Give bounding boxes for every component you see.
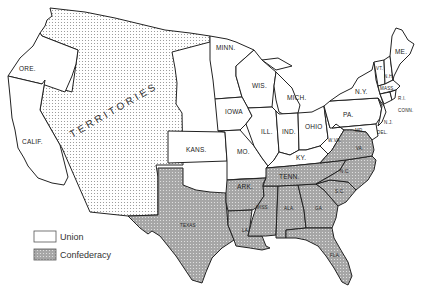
civil-war-map: ORE. CALIF. TERRITORIES MINN. WIS. IOWA … [0,0,424,290]
label-ind: IND. [282,128,296,135]
label-ky: KY. [296,154,306,161]
label-kans: KANS. [186,146,207,153]
label-ny: N.Y. [355,88,368,95]
label-ri: R.I. [398,96,406,101]
label-nj: N.J. [384,120,393,125]
label-nc: N.C. [340,169,350,174]
label-conn: CONN. [398,108,414,113]
label-pa: PA. [343,111,354,118]
label-ala: ALA. [284,206,295,211]
label-minn: MINN. [216,44,235,51]
legend: Union Confederacy [34,231,112,260]
legend-swatch-confederacy [34,249,56,260]
label-miss: MISS. [256,205,269,210]
label-iowa: IOWA [225,108,243,115]
label-wva: W.VA. [328,138,341,143]
label-tenn: TENN. [279,173,300,180]
region-territories [40,8,210,216]
label-vt: VT. [376,66,383,71]
label-ill: ILL. [261,128,273,135]
legend-label-confederacy: Confederacy [60,250,112,260]
label-md: MD. [355,128,364,133]
label-mass: MASS. [380,86,395,91]
label-del: DEL. [377,130,388,135]
label-ark: ARK. [237,183,253,190]
label-ga: GA. [315,206,323,211]
legend-swatch-union [34,231,56,242]
legend-label-union: Union [60,232,84,242]
label-sc: S.C. [335,189,345,194]
label-fla: FLA. [330,253,340,258]
label-va: VA. [356,146,364,151]
label-calif: CALIF. [22,138,43,145]
label-wis: WIS. [252,82,267,89]
map-canvas: ORE. CALIF. TERRITORIES MINN. WIS. IOWA … [0,0,424,290]
label-me: ME. [395,48,407,55]
region-fla [286,228,352,285]
label-mich: MICH. [287,94,306,101]
label-nh: N.H. [384,74,394,79]
label-texas: TEXAS [180,223,196,228]
label-la: LA. [242,228,249,233]
label-ohio: OHIO [305,123,322,130]
label-ore: ORE. [19,65,36,72]
label-mo: MO. [237,148,250,155]
